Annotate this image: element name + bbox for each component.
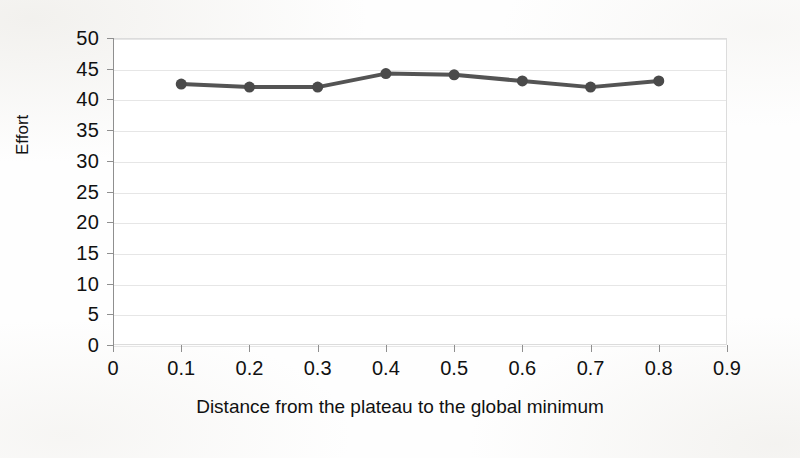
- data-series-effort: [0, 0, 800, 458]
- data-point-marker: [176, 79, 187, 90]
- series-marker-group: [176, 68, 665, 93]
- data-point-marker: [449, 69, 460, 80]
- data-point-marker: [244, 82, 255, 93]
- data-point-marker: [517, 75, 528, 86]
- data-point-marker: [585, 82, 596, 93]
- data-point-marker: [653, 75, 664, 86]
- data-point-marker: [380, 68, 391, 79]
- chart-page: 05101520253035404550 Effort 00.10.20.30.…: [0, 0, 800, 458]
- data-point-marker: [312, 82, 323, 93]
